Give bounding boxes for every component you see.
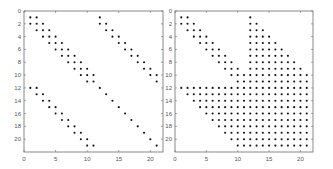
nonzero-marker — [36, 23, 38, 25]
nonzero-marker — [249, 100, 251, 102]
nonzero-marker — [268, 138, 270, 140]
nonzero-marker — [262, 125, 264, 127]
nonzero-marker — [218, 112, 220, 114]
nonzero-marker — [274, 138, 276, 140]
nonzero-marker — [249, 55, 251, 57]
nonzero-marker — [230, 68, 232, 70]
nonzero-marker — [48, 100, 50, 102]
nonzero-marker — [212, 100, 214, 102]
nonzero-marker — [255, 119, 257, 121]
nonzero-marker — [281, 106, 283, 108]
y-tick-label: 18 — [165, 123, 172, 129]
nonzero-marker — [205, 106, 207, 108]
x-tick-label: 10 — [84, 156, 91, 162]
y-tick-label: 12 — [14, 85, 21, 91]
nonzero-marker — [255, 132, 257, 134]
nonzero-marker — [268, 55, 270, 57]
nonzero-marker — [48, 42, 50, 44]
nonzero-marker — [67, 48, 69, 50]
nonzero-marker — [249, 87, 251, 89]
nonzero-marker — [48, 36, 50, 38]
nonzero-marker — [193, 29, 195, 31]
nonzero-marker — [293, 93, 295, 95]
nonzero-marker — [143, 132, 145, 134]
nonzero-marker — [212, 87, 214, 89]
nonzero-marker — [218, 87, 220, 89]
nonzero-marker — [36, 16, 38, 18]
nonzero-marker — [42, 36, 44, 38]
nonzero-marker — [186, 23, 188, 25]
y-tick-label: 4 — [18, 34, 22, 40]
nonzero-marker — [262, 100, 264, 102]
nonzero-marker — [262, 119, 264, 121]
nonzero-marker — [243, 80, 245, 82]
nonzero-marker — [42, 23, 44, 25]
nonzero-marker — [306, 132, 308, 134]
nonzero-marker — [73, 125, 75, 127]
nonzero-marker — [55, 42, 57, 44]
nonzero-marker — [118, 42, 120, 44]
nonzero-marker — [268, 36, 270, 38]
nonzero-marker — [143, 61, 145, 63]
nonzero-marker — [299, 87, 301, 89]
nonzero-marker — [143, 68, 145, 70]
nonzero-marker — [212, 106, 214, 108]
nonzero-marker — [249, 132, 251, 134]
nonzero-marker — [281, 132, 283, 134]
nonzero-marker — [205, 112, 207, 114]
nonzero-marker — [287, 68, 289, 70]
nonzero-marker — [268, 125, 270, 127]
spy-plot-left: 0510152002468101214161820 — [14, 8, 163, 162]
nonzero-marker — [306, 93, 308, 95]
nonzero-marker — [73, 55, 75, 57]
nonzero-marker — [262, 29, 264, 31]
y-tick-label: 0 — [169, 8, 173, 14]
nonzero-marker — [67, 119, 69, 121]
nonzero-marker — [193, 100, 195, 102]
y-tick-label: 2 — [18, 21, 22, 27]
nonzero-marker — [48, 29, 50, 31]
nonzero-marker — [86, 145, 88, 147]
nonzero-marker — [237, 93, 239, 95]
y-tick-label: 16 — [14, 111, 21, 117]
nonzero-marker — [255, 93, 257, 95]
nonzero-marker — [149, 74, 151, 76]
nonzero-marker — [61, 42, 63, 44]
nonzero-marker — [268, 68, 270, 70]
nonzero-marker — [249, 29, 251, 31]
nonzero-marker — [212, 119, 214, 121]
nonzero-marker — [218, 106, 220, 108]
nonzero-marker — [293, 80, 295, 82]
nonzero-marker — [237, 68, 239, 70]
nonzero-marker — [156, 145, 158, 147]
nonzero-marker — [180, 16, 182, 18]
nonzero-marker — [281, 87, 283, 89]
nonzero-marker — [249, 16, 251, 18]
nonzero-marker — [36, 29, 38, 31]
nonzero-marker — [230, 119, 232, 121]
nonzero-marker — [42, 29, 44, 31]
nonzero-marker — [230, 125, 232, 127]
nonzero-marker — [287, 55, 289, 57]
nonzero-marker — [299, 125, 301, 127]
nonzero-marker — [224, 112, 226, 114]
x-tick-label: 15 — [115, 156, 122, 162]
nonzero-marker — [262, 61, 264, 63]
y-tick-label: 8 — [18, 59, 22, 65]
nonzero-marker — [212, 55, 214, 57]
nonzero-marker — [230, 132, 232, 134]
nonzero-marker — [293, 74, 295, 76]
nonzero-marker — [249, 119, 251, 121]
nonzero-marker — [274, 119, 276, 121]
nonzero-marker — [230, 100, 232, 102]
nonzero-marker — [274, 112, 276, 114]
nonzero-marker — [281, 112, 283, 114]
nonzero-marker — [262, 145, 264, 147]
nonzero-marker — [293, 106, 295, 108]
y-tick-label: 8 — [169, 59, 173, 65]
nonzero-marker — [224, 100, 226, 102]
nonzero-marker — [255, 106, 257, 108]
nonzero-marker — [99, 23, 101, 25]
nonzero-marker — [36, 87, 38, 89]
nonzero-marker — [243, 100, 245, 102]
